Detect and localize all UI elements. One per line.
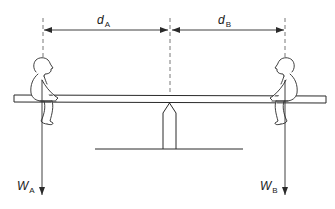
weight-b-label: WB	[260, 180, 278, 192]
distance-a-subscript: A	[105, 20, 110, 29]
seesaw-diagram: dA dB WA WB	[0, 0, 335, 209]
distance-a-label: dA	[97, 14, 110, 26]
right-child-figure	[270, 58, 297, 125]
weight-a-label: WA	[17, 180, 35, 192]
distance-a-symbol: d	[97, 13, 104, 27]
reference-lines	[43, 18, 285, 102]
seesaw-svg	[0, 0, 335, 209]
weight-a-subscript: A	[29, 186, 34, 195]
left-child-figure	[31, 58, 58, 125]
fulcrum	[163, 103, 176, 149]
weight-b-symbol: W	[260, 179, 271, 193]
distance-b-label: dB	[218, 14, 231, 26]
weight-a-symbol: W	[17, 179, 28, 193]
weight-b-subscript: B	[272, 186, 277, 195]
distance-b-symbol: d	[218, 13, 225, 27]
distance-b-subscript: B	[226, 20, 231, 29]
